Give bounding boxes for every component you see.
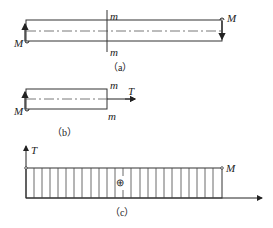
moment-label-b-left: M — [14, 106, 23, 117]
beam-a — [25, 10, 224, 52]
torque-label-b: T — [128, 86, 134, 97]
axis-label-t: T — [31, 145, 37, 156]
caption-c: （c） — [110, 208, 134, 218]
moment-left-icon-a — [25, 24, 29, 43]
section-label-b-bottom: m — [108, 111, 116, 122]
moment-label-a-right: M — [227, 13, 236, 24]
beam-b — [25, 89, 135, 111]
section-label-a-top: m — [110, 11, 118, 22]
section-label-a-bottom: m — [110, 47, 118, 58]
section-label-b-top: m — [110, 80, 118, 91]
value-label-m: M — [226, 163, 235, 174]
caption-b: （b） — [52, 128, 77, 138]
diagram-canvas — [0, 0, 273, 228]
moment-left-icon-b — [25, 92, 29, 111]
caption-a: （a） — [108, 63, 132, 73]
positive-sign-icon: ⊕ — [116, 178, 124, 188]
moment-label-a-left: M — [14, 38, 23, 49]
moment-right-icon-a — [220, 18, 224, 39]
